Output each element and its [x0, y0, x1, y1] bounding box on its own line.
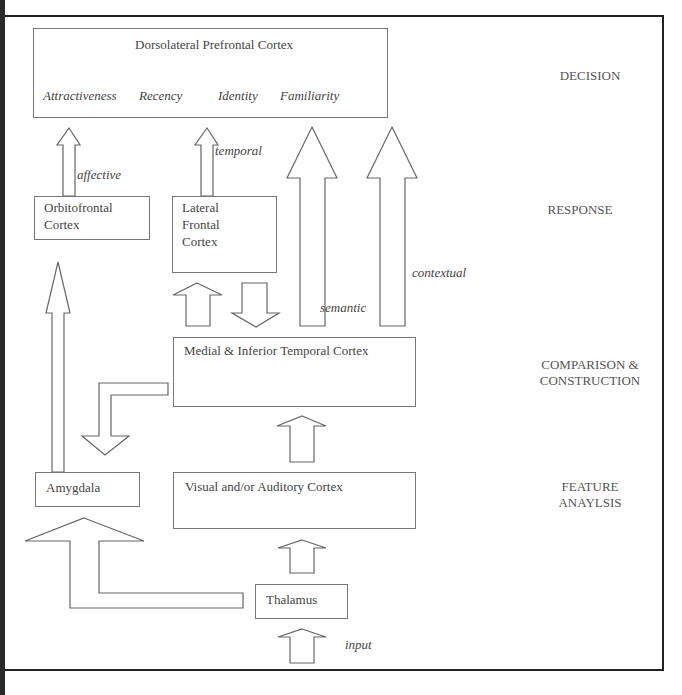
- lfc-to-mitc-arrow-icon: [232, 283, 279, 327]
- label-affective: affective: [77, 167, 121, 183]
- stage-feature-1: FEATURE: [540, 479, 640, 495]
- semantic-arrow-icon: [287, 127, 337, 326]
- affective-arrow-icon: [57, 128, 80, 196]
- label-input: input: [345, 637, 372, 653]
- mitc-to-amygdala-arrow-icon: [82, 383, 168, 455]
- ofc-label-2: Cortex: [44, 217, 79, 233]
- stage-feature-2: ANAYLSIS: [540, 495, 640, 511]
- lfc-label-1: Lateral: [182, 200, 219, 216]
- stage-comparison-1: COMPARISON &: [530, 357, 650, 373]
- ofc-label-1: Orbitofrontal: [44, 200, 113, 216]
- mitc-to-lfc-arrow-icon: [173, 283, 222, 326]
- attr-familiarity: Familiarity: [280, 88, 339, 104]
- label-temporal: temporal: [215, 143, 262, 159]
- contextual-arrow-icon: [367, 127, 417, 326]
- vac-to-mitc-arrow-icon: [277, 416, 326, 462]
- stage-comparison-2: CONSTRUCTION: [530, 373, 650, 389]
- attr-recency: Recency: [139, 88, 182, 104]
- mitc-title: Medial & Inferior Temporal Cortex: [184, 343, 368, 359]
- attr-identity: Identity: [218, 88, 258, 104]
- lfc-label-2: Frontal: [182, 217, 220, 233]
- thalamus-to-vac-arrow-icon: [278, 540, 326, 573]
- vac-title: Visual and/or Auditory Cortex: [185, 479, 343, 495]
- stage-decision: DECISION: [540, 68, 640, 84]
- dlpfc-title: Dorsolateral Prefrontal Cortex: [135, 37, 293, 53]
- temporal-arrow-icon: [195, 128, 218, 196]
- amygdala-title: Amygdala: [46, 480, 100, 496]
- amygdala-to-ofc-arrow-icon: [46, 262, 70, 472]
- label-contextual: contextual: [412, 265, 466, 281]
- thalamus-to-amygdala-arrow-icon: [25, 518, 243, 608]
- input-arrow-icon: [278, 629, 326, 663]
- stage-response: RESPONSE: [530, 202, 630, 218]
- thalamus-title: Thalamus: [266, 592, 317, 608]
- attr-attractiveness: Attractiveness: [43, 88, 117, 104]
- lfc-label-3: Cortex: [182, 234, 217, 250]
- label-semantic: semantic: [320, 300, 366, 316]
